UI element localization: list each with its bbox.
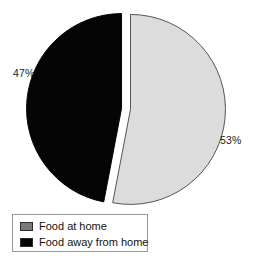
legend-label-food-at-home: Food at home xyxy=(39,221,107,232)
chart-legend: Food at home Food away from home xyxy=(12,214,148,252)
pie-chart-graphic xyxy=(0,0,259,215)
pie-chart-figure: 47% 53% Food at home Food away from home xyxy=(0,0,259,269)
slice-label-food-at-home: 53% xyxy=(220,135,241,146)
legend-label-food-away-from-home: Food away from home xyxy=(39,237,148,248)
legend-swatch-icon-food-away-from-home xyxy=(20,238,33,247)
legend-item-food-away-from-home[interactable]: Food away from home xyxy=(20,234,147,250)
slice-label-food-away-from-home: 47% xyxy=(13,68,34,79)
pie-slice-food-away-from-home[interactable] xyxy=(27,14,122,202)
pie-slice-food-at-home[interactable] xyxy=(113,14,226,204)
legend-swatch-icon-food-at-home xyxy=(20,222,33,231)
legend-item-food-at-home[interactable]: Food at home xyxy=(20,218,147,234)
